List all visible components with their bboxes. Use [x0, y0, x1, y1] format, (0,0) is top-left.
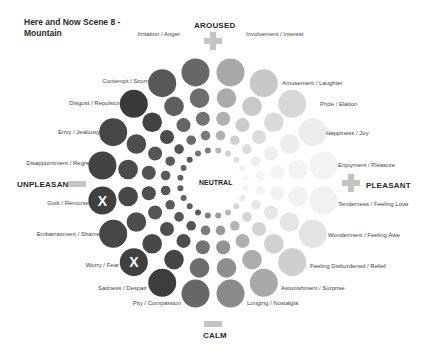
- emotion-intensity-circle[interactable]: [288, 187, 308, 207]
- emotion-intensity-circle[interactable]: [217, 88, 237, 108]
- emotion-spoke[interactable]: [182, 58, 211, 153]
- emotion-spoke[interactable]: [215, 213, 244, 308]
- emotion-intensity-circle[interactable]: [233, 157, 239, 163]
- emotion-intensity-circle[interactable]: [264, 112, 284, 132]
- emotion-intensity-circle[interactable]: [177, 118, 191, 132]
- emotion-intensity-circle[interactable]: [264, 206, 278, 220]
- emotion-intensity-circle[interactable]: [250, 69, 278, 97]
- emotion-intensity-circle[interactable]: [264, 147, 278, 161]
- emotion-intensity-circle[interactable]: [270, 186, 284, 200]
- emotion-intensity-circle[interactable]: [181, 195, 187, 201]
- emotion-intensity-circle[interactable]: [251, 156, 261, 166]
- emotion-intensity-circle[interactable]: [187, 157, 193, 163]
- emotion-intensity-circle[interactable]: [242, 144, 252, 154]
- emotion-intensity-circle[interactable]: [252, 130, 266, 144]
- emotion-intensity-circle[interactable]: [201, 226, 211, 236]
- emotion-intensity-circle[interactable]: [216, 131, 226, 141]
- emotion-intensity-circle[interactable]: [270, 166, 284, 180]
- emotion-spoke[interactable]: [182, 213, 211, 308]
- emotion-intensity-circle[interactable]: [195, 151, 201, 157]
- emotion-intensity-circle[interactable]: [190, 258, 210, 278]
- emotion-intensity-circle[interactable]: [165, 156, 175, 166]
- emotion-intensity-circle[interactable]: [99, 118, 127, 146]
- emotion-intensity-circle[interactable]: [216, 112, 230, 126]
- emotion-intensity-circle[interactable]: [239, 195, 245, 201]
- emotion-intensity-circle[interactable]: [120, 90, 148, 118]
- emotion-intensity-circle[interactable]: [177, 234, 191, 248]
- emotion-intensity-circle[interactable]: [187, 203, 193, 209]
- emotion-intensity-circle[interactable]: [201, 131, 211, 141]
- emotion-intensity-circle[interactable]: [205, 147, 211, 153]
- emotion-intensity-circle[interactable]: [142, 234, 162, 254]
- emotion-intensity-circle[interactable]: [216, 240, 230, 254]
- emotion-intensity-circle[interactable]: [186, 221, 196, 231]
- emotion-intensity-circle[interactable]: [196, 240, 210, 254]
- emotion-intensity-circle[interactable]: [250, 269, 278, 297]
- emotion-intensity-circle[interactable]: [225, 209, 231, 215]
- emotion-intensity-circle[interactable]: [160, 222, 174, 236]
- emotion-intensity-circle[interactable]: [182, 58, 210, 86]
- emotion-intensity-circle[interactable]: [142, 166, 156, 180]
- emotion-intensity-circle[interactable]: [225, 151, 231, 157]
- emotion-intensity-circle[interactable]: [99, 220, 127, 248]
- emotion-intensity-circle[interactable]: [236, 118, 250, 132]
- emotion-intensity-circle[interactable]: [217, 280, 245, 308]
- emotion-intensity-circle[interactable]: [148, 147, 162, 161]
- emotion-intensity-circle[interactable]: [216, 226, 226, 236]
- emotion-intensity-circle[interactable]: [239, 165, 245, 171]
- emotion-intensity-circle[interactable]: [299, 220, 327, 248]
- emotion-intensity-circle[interactable]: [196, 112, 210, 126]
- emotion-intensity-circle[interactable]: [161, 186, 171, 196]
- emotion-intensity-circle[interactable]: [233, 203, 239, 209]
- emotion-intensity-circle[interactable]: [148, 269, 176, 297]
- emotion-intensity-circle[interactable]: [278, 90, 306, 118]
- emotion-intensity-circle[interactable]: [160, 130, 174, 144]
- emotion-intensity-circle[interactable]: [243, 175, 249, 181]
- emotion-intensity-circle[interactable]: [195, 209, 201, 215]
- emotion-intensity-circle[interactable]: [177, 175, 183, 181]
- emotion-intensity-circle[interactable]: [280, 134, 300, 154]
- emotion-intensity-circle[interactable]: [256, 171, 266, 181]
- emotion-intensity-circle[interactable]: [118, 187, 138, 207]
- emotion-intensity-circle[interactable]: [236, 234, 250, 248]
- emotion-intensity-circle[interactable]: [242, 97, 262, 117]
- emotion-intensity-circle[interactable]: [148, 69, 176, 97]
- emotion-intensity-circle[interactable]: [186, 135, 196, 145]
- emotion-intensity-circle[interactable]: [215, 147, 221, 153]
- emotion-intensity-circle[interactable]: [230, 135, 240, 145]
- emotion-intensity-circle[interactable]: [251, 200, 261, 210]
- emotion-intensity-circle[interactable]: [174, 144, 184, 154]
- emotion-intensity-circle[interactable]: [142, 186, 156, 200]
- emotion-intensity-circle[interactable]: [256, 186, 266, 196]
- emotion-intensity-circle[interactable]: [230, 221, 240, 231]
- emotion-intensity-circle[interactable]: [142, 112, 162, 132]
- emotion-intensity-circle[interactable]: [148, 206, 162, 220]
- emotion-spoke[interactable]: X: [88, 185, 183, 214]
- emotion-intensity-circle[interactable]: [164, 250, 184, 270]
- emotion-intensity-circle[interactable]: [190, 88, 210, 108]
- emotion-intensity-circle[interactable]: [215, 213, 221, 219]
- emotion-intensity-circle[interactable]: [165, 200, 175, 210]
- emotion-intensity-circle[interactable]: [118, 160, 138, 180]
- emotion-intensity-circle[interactable]: [242, 250, 262, 270]
- emotion-intensity-circle[interactable]: [278, 248, 306, 276]
- emotion-intensity-circle[interactable]: [174, 212, 184, 222]
- emotion-intensity-circle[interactable]: [181, 165, 187, 171]
- emotion-intensity-circle[interactable]: [127, 134, 147, 154]
- emotion-intensity-circle[interactable]: [164, 97, 184, 117]
- emotion-intensity-circle[interactable]: [264, 234, 284, 254]
- emotion-intensity-circle[interactable]: [252, 222, 266, 236]
- emotion-spoke[interactable]: [243, 185, 338, 214]
- emotion-intensity-circle[interactable]: [243, 185, 249, 191]
- emotion-spoke[interactable]: [215, 58, 244, 153]
- emotion-intensity-circle[interactable]: [182, 280, 210, 308]
- emotion-intensity-circle[interactable]: [242, 212, 252, 222]
- emotion-intensity-circle[interactable]: [161, 171, 171, 181]
- emotion-spoke[interactable]: [243, 152, 338, 181]
- emotion-spoke[interactable]: [88, 152, 183, 181]
- emotion-intensity-circle[interactable]: [217, 58, 245, 86]
- emotion-intensity-circle[interactable]: [127, 212, 147, 232]
- emotion-intensity-circle[interactable]: [288, 160, 308, 180]
- emotion-intensity-circle[interactable]: [177, 185, 183, 191]
- emotion-intensity-circle[interactable]: [205, 213, 211, 219]
